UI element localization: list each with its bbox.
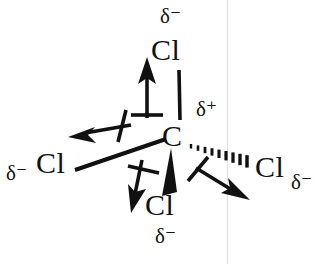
dipole-arrow-up xyxy=(131,57,163,118)
charge-label-cl-top: δ⁻ xyxy=(160,6,181,27)
bond-c-cl-left xyxy=(75,139,166,170)
atom-label-cl-left: Cl xyxy=(36,148,65,178)
atom-label-c-center: C xyxy=(162,121,183,151)
atom-label-cl-right: Cl xyxy=(255,152,284,182)
charge-label-cl-bottom: δ⁻ xyxy=(155,226,176,247)
charge-label-c-center: δ⁺ xyxy=(196,99,217,120)
charge-label-cl-right: δ⁻ xyxy=(291,172,312,193)
ccl4-dipole-diagram: Cl Cl Cl Cl C δ⁻ δ⁻ δ⁻ δ⁻ δ⁺ xyxy=(0,0,322,264)
bond-c-cl-top xyxy=(179,70,180,120)
bond-c-cl-right-hashed-wedge xyxy=(191,144,247,168)
atom-label-cl-bottom: Cl xyxy=(145,190,174,220)
atom-label-cl-top: Cl xyxy=(151,35,180,65)
dipole-arrow-left xyxy=(68,110,131,143)
charge-label-cl-left: δ⁻ xyxy=(6,163,27,184)
